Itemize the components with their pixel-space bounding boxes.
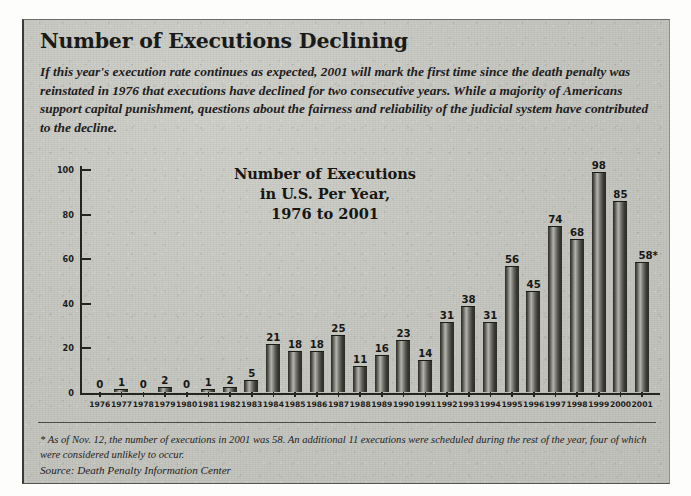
x-axis-tick	[381, 392, 383, 397]
bar-value-label: 0	[176, 379, 198, 390]
bar-value-label: 56	[501, 254, 523, 265]
scanned-article-page: Number of Executions Declining If this y…	[0, 0, 691, 496]
x-axis-tick	[208, 392, 210, 397]
bar-value-label: 31	[479, 310, 501, 321]
y-axis-tick	[82, 258, 91, 260]
bar-value-label: 38	[458, 294, 480, 305]
bar[interactable]	[440, 322, 454, 392]
bar[interactable]	[548, 226, 562, 392]
y-axis-tick	[82, 347, 91, 349]
bar-value-label: 98	[588, 160, 610, 171]
x-axis-tick	[576, 392, 578, 397]
bar[interactable]	[266, 344, 280, 392]
bar-value-label: 18	[284, 339, 306, 350]
x-axis-tick	[620, 392, 622, 397]
footnote-text: * As of Nov. 12, the number of execution…	[40, 432, 652, 463]
x-axis-tick	[490, 392, 492, 397]
bar[interactable]	[483, 322, 497, 392]
bar[interactable]	[570, 239, 584, 392]
bar-value-label: 85	[610, 189, 632, 200]
x-axis-tick	[143, 392, 145, 397]
x-axis-tick	[425, 392, 427, 397]
bar-value-label: 5	[241, 368, 263, 379]
bar[interactable]	[331, 335, 345, 392]
x-axis-tick	[273, 392, 275, 397]
bar[interactable]	[635, 262, 649, 392]
section-divider	[38, 422, 656, 423]
bar-value-label: 16	[371, 343, 393, 354]
bar[interactable]	[353, 366, 367, 392]
y-axis-tick	[82, 214, 91, 216]
y-axis-label: 40	[40, 299, 74, 309]
x-axis-tick	[468, 392, 470, 397]
x-axis-tick	[403, 392, 405, 397]
x-axis-tick	[229, 392, 231, 397]
bar-value-label: 74	[545, 214, 567, 225]
y-axis-line	[80, 166, 82, 395]
bar-value-label: 14	[414, 348, 436, 359]
bar-value-label: 0	[132, 379, 154, 390]
x-axis-tick	[186, 392, 188, 397]
bar[interactable]	[418, 360, 432, 392]
x-axis-tick	[121, 392, 123, 397]
x-axis-tick	[294, 392, 296, 397]
y-axis-label: 100	[40, 165, 74, 175]
x-axis-tick	[338, 392, 340, 397]
bar-value-label: 11	[349, 354, 371, 365]
bar-value-label: 31	[436, 310, 458, 321]
x-axis-tick	[99, 392, 101, 397]
y-axis-tick	[82, 303, 91, 305]
x-axis-tick	[533, 392, 535, 397]
x-axis-tick	[641, 392, 643, 397]
x-axis-line	[80, 393, 660, 395]
bar[interactable]	[526, 291, 540, 392]
intro-paragraph: If this year's execution rate continues …	[40, 63, 656, 137]
x-axis-tick	[555, 392, 557, 397]
bar[interactable]	[288, 351, 302, 392]
bar[interactable]	[396, 340, 410, 392]
bar-value-label: 2	[154, 375, 176, 386]
bar-value-label: 18	[306, 339, 328, 350]
x-axis-tick	[359, 392, 361, 397]
y-axis-label: 20	[40, 343, 74, 353]
bar-value-label: 45	[523, 279, 545, 290]
bar-value-label: 23	[393, 328, 415, 339]
bar-value-label: 1	[111, 377, 133, 388]
x-axis-label: 2001	[629, 400, 655, 409]
x-axis-tick	[511, 392, 513, 397]
bar-value-label: 1	[197, 377, 219, 388]
y-axis-tick	[82, 169, 91, 171]
y-axis-label: 0	[40, 388, 74, 398]
bar[interactable]	[505, 266, 519, 392]
x-axis-tick	[164, 392, 166, 397]
bar[interactable]	[592, 172, 606, 392]
bar-chart: Number of Executions in U.S. Per Year, 1…	[24, 142, 670, 424]
page-title: Number of Executions Declining	[40, 29, 408, 53]
bar-value-label: 2	[219, 375, 241, 386]
bar-value-label: 21	[263, 332, 285, 343]
x-axis-tick	[251, 392, 253, 397]
source-credit: Source: Death Penalty Information Center	[40, 464, 231, 476]
y-axis-label: 60	[40, 254, 74, 264]
bar-value-label: 0	[89, 379, 111, 390]
bar[interactable]	[461, 306, 475, 392]
bar-value-label: 25	[328, 323, 350, 334]
x-axis-tick	[316, 392, 318, 397]
bar[interactable]	[310, 351, 324, 392]
x-axis-tick	[598, 392, 600, 397]
bar[interactable]	[613, 201, 627, 392]
bar-value-label: 68	[566, 227, 588, 238]
y-axis-label: 80	[40, 210, 74, 220]
bar[interactable]	[244, 380, 258, 392]
bar-value-label: 58*	[631, 250, 659, 261]
bar[interactable]	[375, 355, 389, 392]
plot-area: 020406080100 010201252118182511162314313…	[80, 166, 660, 394]
article-panel: Number of Executions Declining If this y…	[22, 19, 670, 484]
x-axis-tick	[446, 392, 448, 397]
